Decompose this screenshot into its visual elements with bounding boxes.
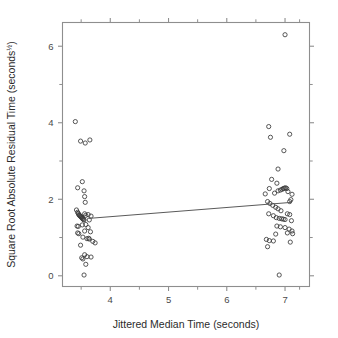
data-point bbox=[80, 256, 84, 260]
data-point bbox=[83, 200, 87, 204]
data-point bbox=[276, 167, 280, 171]
data-point bbox=[267, 186, 271, 190]
data-point bbox=[277, 273, 281, 277]
scatter-plot-figure: 4567 0246 Jittered Median Time (seconds)… bbox=[0, 0, 338, 338]
y-tick-label: 6 bbox=[48, 41, 53, 52]
data-point bbox=[274, 232, 278, 236]
data-point bbox=[78, 139, 82, 143]
data-point bbox=[268, 135, 272, 139]
data-point bbox=[82, 273, 86, 277]
data-point bbox=[282, 149, 286, 153]
x-tick-label: 5 bbox=[166, 294, 171, 305]
axis-ticks bbox=[58, 18, 314, 291]
data-point bbox=[270, 177, 274, 181]
x-axis-title: Jittered Median Time (seconds) bbox=[113, 318, 259, 330]
data-points bbox=[73, 33, 294, 277]
data-point bbox=[265, 245, 269, 249]
y-axis-title-text: Square Root Absolute Residual Time (seco… bbox=[5, 41, 17, 268]
plot-frame bbox=[63, 23, 310, 287]
x-tick-label: 7 bbox=[282, 294, 287, 305]
y-axis-title: Square Root Absolute Residual Time (seco… bbox=[5, 41, 17, 268]
data-point bbox=[283, 33, 287, 37]
y-axis-tick-labels: 0246 bbox=[48, 41, 53, 282]
data-point bbox=[88, 230, 92, 234]
data-point bbox=[88, 138, 92, 142]
plot-canvas: 4567 0246 Jittered Median Time (seconds)… bbox=[0, 0, 338, 338]
data-point bbox=[83, 229, 87, 233]
data-point bbox=[267, 124, 271, 128]
data-point bbox=[285, 231, 289, 235]
regression-line-segment bbox=[89, 202, 292, 218]
data-point bbox=[283, 225, 287, 229]
data-point bbox=[89, 255, 93, 259]
data-point bbox=[76, 186, 80, 190]
data-point bbox=[275, 181, 279, 185]
data-point bbox=[289, 219, 293, 223]
regression-line bbox=[89, 202, 292, 218]
data-point bbox=[84, 262, 88, 266]
x-tick-label: 4 bbox=[108, 294, 113, 305]
data-point bbox=[267, 212, 271, 216]
data-point bbox=[78, 243, 82, 247]
x-axis-title-text: Jittered Median Time (seconds) bbox=[113, 318, 259, 330]
data-point bbox=[83, 141, 87, 145]
data-point bbox=[271, 239, 275, 243]
y-tick-label: 0 bbox=[48, 270, 53, 281]
data-point bbox=[81, 257, 85, 261]
data-point bbox=[290, 192, 294, 196]
data-point bbox=[291, 232, 295, 236]
data-point bbox=[81, 235, 85, 239]
data-point bbox=[73, 120, 77, 124]
x-axis-tick-labels: 4567 bbox=[108, 294, 288, 305]
x-tick-label: 6 bbox=[224, 294, 229, 305]
data-point bbox=[86, 225, 90, 229]
data-point bbox=[83, 194, 87, 198]
data-point bbox=[288, 132, 292, 136]
y-tick-label: 4 bbox=[48, 117, 53, 128]
y-tick-label: 2 bbox=[48, 194, 53, 205]
data-point bbox=[80, 180, 84, 184]
data-point bbox=[263, 192, 267, 196]
data-point bbox=[288, 240, 292, 244]
data-point bbox=[82, 189, 86, 193]
